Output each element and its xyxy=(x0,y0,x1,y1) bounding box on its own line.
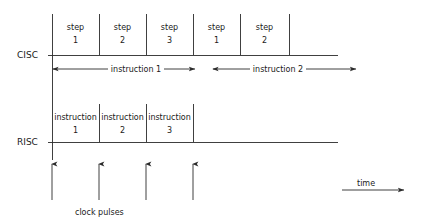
risc-cell: instruction 1 xyxy=(54,113,97,135)
risc-track: RISC instruction 1 instruction 2 instruc… xyxy=(17,60,338,160)
cisc-cell-line2: 1 xyxy=(214,36,219,45)
risc-cell-line2: 1 xyxy=(73,126,78,135)
instruction-1-span: instruction 1 xyxy=(53,65,195,74)
time-axis: time xyxy=(342,179,404,190)
risc-cell: instruction 2 xyxy=(101,113,144,135)
risc-cell-line1: instruction xyxy=(101,113,144,122)
risc-cell-line1: instruction xyxy=(54,113,97,122)
cisc-cell: step 1 xyxy=(208,23,225,45)
cisc-cell-line1: step xyxy=(208,23,225,32)
risc-cell-line2: 3 xyxy=(167,126,172,135)
instruction-2-span: instruction 2 xyxy=(213,65,356,74)
cisc-cell: step 3 xyxy=(161,23,178,45)
cisc-cell-line2: 2 xyxy=(262,36,267,45)
risc-cell-line1: instruction xyxy=(148,113,191,122)
time-axis-label: time xyxy=(357,179,375,188)
clock-pulses: clock pulses xyxy=(52,164,193,217)
cisc-cell-line2: 3 xyxy=(167,36,172,45)
risc-cell: instruction 3 xyxy=(148,113,191,135)
timing-diagram: CISC step 1 step 2 step 3 xyxy=(0,0,432,221)
cisc-cell-line1: step xyxy=(161,23,178,32)
risc-cell-line2: 2 xyxy=(120,126,125,135)
cisc-cell: step 1 xyxy=(67,23,84,45)
cisc-cell: step 2 xyxy=(256,23,273,45)
cisc-cell-line2: 1 xyxy=(73,36,78,45)
cisc-cell: step 2 xyxy=(114,23,131,45)
clock-pulses-caption: clock pulses xyxy=(75,208,124,217)
instruction-1-span-label: instruction 1 xyxy=(111,65,161,74)
cisc-track-label: CISC xyxy=(17,50,38,60)
cisc-cell-line2: 2 xyxy=(120,36,125,45)
cisc-cell-line1: step xyxy=(114,23,131,32)
cisc-instruction-spans: instruction 1 instruction 2 xyxy=(53,65,356,74)
risc-track-label: RISC xyxy=(17,137,38,147)
instruction-2-span-label: instruction 2 xyxy=(253,65,303,74)
cisc-cell-line1: step xyxy=(256,23,273,32)
cisc-track: CISC step 1 step 2 step 3 xyxy=(17,14,338,60)
timing-diagram-canvas: CISC step 1 step 2 step 3 xyxy=(0,0,432,221)
cisc-cell-line1: step xyxy=(67,23,84,32)
